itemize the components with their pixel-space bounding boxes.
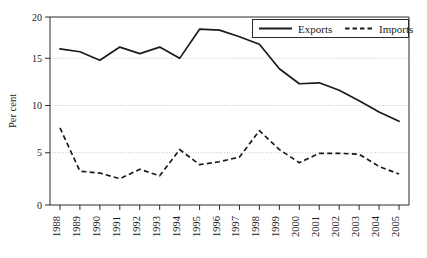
x-tick-label-2002: 2002	[330, 216, 341, 237]
x-tick-label-1998: 1998	[250, 216, 261, 237]
x-tick-label-1997: 1997	[230, 216, 241, 237]
y-tick-label-20: 20	[32, 12, 42, 23]
y-tick-label-15: 15	[32, 53, 42, 64]
x-tick-label-1993: 1993	[151, 216, 162, 237]
chart-legend: Exports Imports	[253, 20, 414, 38]
x-tick-label-1999: 1999	[270, 216, 281, 237]
plot-background	[50, 17, 409, 205]
x-tick-label-1988: 1988	[51, 216, 62, 237]
x-tick-label-1996: 1996	[211, 216, 222, 237]
legend-label-exports: Exports	[298, 23, 332, 35]
y-tick-label-0: 0	[37, 200, 42, 211]
x-tick-label-1990: 1990	[91, 216, 102, 237]
x-tick-label-2004: 2004	[370, 215, 381, 237]
y-tick-label-10: 10	[32, 100, 42, 111]
line-chart: 20 15 10 5 0 Per cent 198819891990199119…	[0, 0, 427, 258]
y-axis-title: Per cent	[7, 94, 18, 128]
y-axis-ticks	[45, 17, 50, 205]
x-tick-label-1989: 1989	[71, 216, 82, 237]
x-axis-tick-labels: 1988198919901991199219931994199519961997…	[51, 215, 401, 237]
x-tick-label-1995: 1995	[191, 216, 202, 237]
x-axis-ticks	[60, 205, 399, 210]
x-tick-label-2001: 2001	[310, 216, 321, 237]
x-tick-label-1992: 1992	[131, 216, 142, 237]
chart-container: 20 15 10 5 0 Per cent 198819891990199119…	[0, 0, 427, 258]
x-tick-label-2005: 2005	[390, 216, 401, 237]
legend-label-imports: Imports	[379, 23, 413, 35]
x-tick-label-2000: 2000	[290, 216, 301, 237]
x-tick-label-2003: 2003	[350, 216, 361, 237]
y-tick-label-5: 5	[37, 147, 42, 158]
x-tick-label-1991: 1991	[111, 216, 122, 237]
y-axis-tick-labels: 20 15 10 5 0	[32, 12, 42, 211]
x-tick-label-1994: 1994	[171, 215, 182, 237]
